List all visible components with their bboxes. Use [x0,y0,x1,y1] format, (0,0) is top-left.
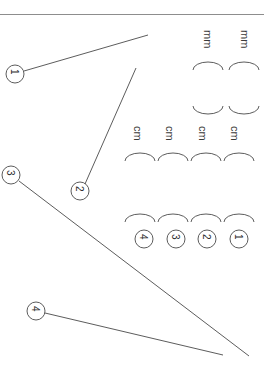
arc-cm-upper-3 [191,153,221,161]
callout-4-bottom-left-digit: 4 [30,306,40,312]
row-callout-2-digit: 2 [201,234,211,240]
diagram-canvas: 43214321mmmmcmcmcmcm [0,0,264,372]
arc-mm-upper-2 [229,62,259,70]
arc-mm-lower-1 [193,106,223,114]
unit-label-cm-5: cm [229,126,240,141]
arc-mm-upper-1 [193,62,223,70]
row-callout-1-digit: 1 [233,234,243,240]
arc-cm-upper-1 [125,153,155,161]
leader-line-1 [24,35,148,71]
leader-line-4 [45,313,223,355]
unit-label-cm-3: cm [164,126,175,141]
callout-circle-group [2,65,248,320]
leader-line-2 [85,68,136,184]
arc-cm-lower-2 [158,214,188,222]
unit-label-cm-2: cm [132,126,143,141]
arc-cm-upper-2 [158,153,188,161]
callout-2-middle-digit: 2 [74,186,84,192]
arc-cm-upper-4 [224,153,254,161]
row-callout-3-digit: 3 [170,234,180,240]
arc-mm-lower-2 [229,106,259,114]
row-callout-4-digit: 4 [138,234,148,240]
arc-cm-lower-4 [224,214,254,222]
unit-label-mm-1: mm [239,30,250,48]
unit-label-cm-4: cm [197,126,208,141]
callout-3-left-digit: 3 [5,170,15,176]
dimension-arc-group [125,62,259,222]
unit-label-mm-0: mm [202,30,213,48]
arc-cm-lower-1 [125,214,155,222]
leader-line-group [19,35,249,356]
leader-line-3 [19,181,249,356]
callout-1-top-left-digit: 1 [9,69,19,75]
vector-layer [0,0,264,372]
arc-cm-lower-3 [191,214,221,222]
